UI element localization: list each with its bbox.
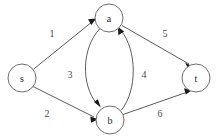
edge-a-b-arrowhead xyxy=(94,99,101,107)
node-t-label: t xyxy=(195,73,198,84)
diagram-canvas: 1 2 3 4 xyxy=(0,0,223,140)
edge-s-b-label: 2 xyxy=(45,108,50,119)
edge-b-t-label: 6 xyxy=(158,108,163,119)
edge-b-a-line xyxy=(121,31,133,111)
edge-a-b-label: 3 xyxy=(68,69,73,80)
edge-b-a[interactable]: 4 xyxy=(118,27,147,110)
node-s-label: s xyxy=(20,73,24,84)
edge-s-b[interactable]: 2 xyxy=(33,87,98,123)
node-a-label: a xyxy=(107,13,112,24)
node-group: s a b t xyxy=(8,4,210,134)
edge-b-t[interactable]: 6 xyxy=(123,88,192,118)
edge-s-a[interactable]: 1 xyxy=(34,19,97,70)
node-b-label: b xyxy=(108,115,113,126)
flow-network-diagram: 1 2 3 4 xyxy=(0,0,223,140)
node-s[interactable]: s xyxy=(8,64,36,92)
edge-a-t-label: 5 xyxy=(163,28,168,39)
edge-b-a-label: 4 xyxy=(142,69,147,80)
node-t[interactable]: t xyxy=(182,64,210,92)
edge-s-a-line xyxy=(34,22,93,70)
edge-a-b-line xyxy=(85,29,99,104)
edge-b-t-line xyxy=(123,92,188,115)
edge-s-a-label: 1 xyxy=(50,28,55,39)
node-a[interactable]: a xyxy=(95,4,123,32)
edge-s-b-line xyxy=(33,87,94,118)
edge-a-b[interactable]: 3 xyxy=(68,29,101,108)
node-b[interactable]: b xyxy=(96,106,124,134)
